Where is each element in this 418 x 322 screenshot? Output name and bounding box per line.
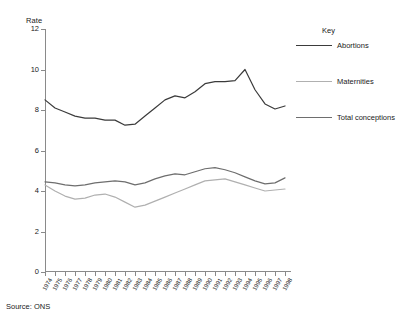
legend-item: Total conceptions <box>296 112 414 124</box>
x-tick <box>245 272 246 276</box>
legend-label: Total conceptions <box>337 112 395 124</box>
x-tick <box>165 272 166 276</box>
legend-item: Abortions <box>296 40 414 52</box>
x-tick <box>45 272 46 276</box>
x-tick <box>185 272 186 276</box>
series-line <box>45 168 285 186</box>
legend-swatch <box>296 45 332 46</box>
legend-swatch <box>296 81 332 82</box>
plot-area: 024681012 197419751976197719781979198019… <box>45 29 291 272</box>
x-tick <box>155 272 156 276</box>
y-tick-label: 8 <box>35 106 39 114</box>
y-tick-label: 4 <box>35 187 39 195</box>
x-tick <box>275 272 276 276</box>
x-tick <box>75 272 76 276</box>
x-tick <box>135 272 136 276</box>
y-tick-label: 12 <box>31 25 39 33</box>
y-tick-label: 6 <box>35 147 39 155</box>
series-line <box>45 70 285 126</box>
legend-swatch <box>296 117 332 118</box>
x-tick <box>215 272 216 276</box>
x-tick <box>65 272 66 276</box>
x-tick <box>55 272 56 276</box>
x-tick <box>195 272 196 276</box>
x-tick <box>95 272 96 276</box>
x-tick <box>145 272 146 276</box>
x-tick <box>265 272 266 276</box>
x-tick <box>85 272 86 276</box>
legend-item: Maternities <box>296 76 414 88</box>
legend-title: Key <box>322 26 335 35</box>
x-tick <box>125 272 126 276</box>
x-tick <box>175 272 176 276</box>
x-tick <box>235 272 236 276</box>
series-lines <box>45 29 291 272</box>
x-tick <box>105 272 106 276</box>
legend-label: Maternities <box>337 76 374 88</box>
x-tick-label: 1974 <box>41 277 53 292</box>
x-tick <box>225 272 226 276</box>
y-tick-label: 10 <box>31 66 39 74</box>
x-tick <box>285 272 286 276</box>
series-line <box>45 179 285 207</box>
y-tick-label: 0 <box>35 268 39 276</box>
source-note: Source: ONS <box>6 302 50 311</box>
x-tick <box>255 272 256 276</box>
y-tick-label: 2 <box>35 228 39 236</box>
x-tick <box>115 272 116 276</box>
legend-label: Abortions <box>337 40 369 52</box>
x-tick <box>205 272 206 276</box>
chart-figure: Rate 024681012 1974197519761977197819791… <box>0 0 418 322</box>
